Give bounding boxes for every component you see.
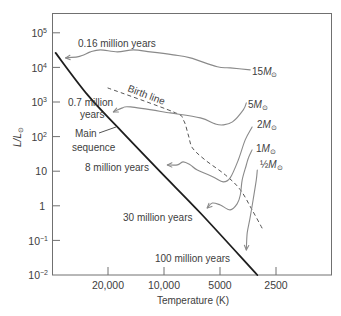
x-tick-label: 2500 <box>264 279 288 291</box>
track-2-m-line <box>167 127 252 182</box>
label-time-100-myr: 100 million years <box>155 253 230 264</box>
birth-line-line <box>108 88 264 230</box>
x-axis-title: Temperature (K) <box>157 295 229 306</box>
y-tick-label: 103 <box>31 96 47 108</box>
mass-label-5: 5M⊙ <box>248 99 268 111</box>
y-tick-label: 10−2 <box>28 269 48 281</box>
y-axis-ticks <box>53 33 61 241</box>
x-tick-label: 20,000 <box>92 279 124 291</box>
y-tick-label: 102 <box>31 131 47 143</box>
label-time-0.7-myr-line2: years <box>80 109 104 120</box>
label-birth-line: Birth line <box>126 83 167 107</box>
track-1-m-line <box>207 150 252 210</box>
label-main-sequence-line1: Main <box>75 128 97 139</box>
mass-labels: 15M⊙ 5M⊙ 2M⊙ 1M⊙ ½M⊙ <box>248 66 283 171</box>
label-time-0.16-myr: 0.16 million years <box>78 38 156 49</box>
x-tick-label: 5000 <box>208 279 232 291</box>
y-tick-label: 10 <box>35 165 47 177</box>
y-tick-label: 10−1 <box>28 235 48 247</box>
y-tick-label: 104 <box>31 62 47 74</box>
track-15-m-line <box>66 50 251 70</box>
mass-label-half: ½M⊙ <box>260 159 283 171</box>
x-tick-labels: 20,000 10,000 5000 2500 <box>92 279 288 291</box>
annotations: 0.16 million years 0.7 million years Mai… <box>68 38 230 264</box>
y-axis-title: L/L⊙ <box>12 127 24 147</box>
label-time-0.7-myr-line1: 0.7 million <box>68 97 113 108</box>
mass-label-1: 1M⊙ <box>256 143 276 155</box>
hr-diagram: 105 104 103 102 10 1 10−1 10−2 20,000 10… <box>0 0 341 316</box>
main-sequence-pointer <box>99 127 116 133</box>
label-main-sequence-line2: sequence <box>72 142 116 153</box>
track-1-2-m-line <box>246 170 257 250</box>
track-5-m-line <box>113 103 246 125</box>
y-tick-labels: 105 104 103 102 10 1 10−1 10−2 <box>28 27 48 281</box>
label-time-8-myr: 8 million years <box>85 162 149 173</box>
label-time-30-myr: 30 million years <box>123 212 192 223</box>
y-tick-label: 1 <box>39 200 45 212</box>
y-tick-label: 105 <box>31 27 47 39</box>
x-tick-label: 10,000 <box>148 279 180 291</box>
mass-label-15: 15M⊙ <box>252 66 277 78</box>
mass-label-2: 2M⊙ <box>257 119 277 131</box>
